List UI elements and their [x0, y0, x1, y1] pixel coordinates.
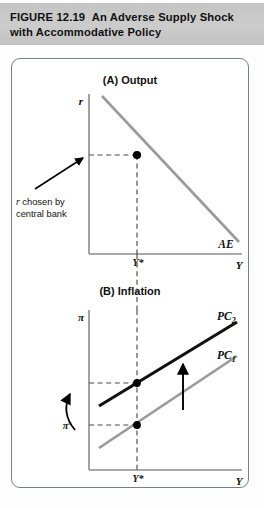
panel-b-inflation: (B) Inflation π Y	[63, 254, 244, 487]
panel-b-x-axis-label: Y	[236, 475, 244, 487]
panel-a-annotation-rest1: chosen by	[22, 197, 65, 207]
panel-a-annotation-arrow-icon	[35, 158, 83, 189]
panel-a-annotation-italic-r: r	[16, 196, 20, 207]
panel-b-pc1-curve	[99, 356, 237, 448]
figure-title-line1: An Adverse Supply Shock	[92, 11, 234, 23]
panel-b-pc1-label-sub: 1	[232, 355, 236, 364]
figure-title-line2: with Accommodative Policy	[10, 25, 258, 40]
panel-b-title: (B) Inflation	[99, 285, 160, 297]
panel-b-y-tick-sup: e	[68, 419, 71, 427]
figure-title: FIGURE 12.19 An Adverse Supply Shock wit…	[10, 10, 258, 39]
figure-charts: (A) Output r Y AE Y* rchosen by	[11, 58, 249, 488]
panel-a-y-axis-label: r	[79, 95, 84, 107]
panel-b-x-tick-label: Y*	[132, 473, 144, 484]
panel-a-annotation-line1: rchosen by	[16, 196, 65, 207]
panel-a-annotation-line2: central bank	[16, 209, 67, 219]
figure-header-band: FIGURE 12.19 An Adverse Supply Shock wit…	[0, 3, 264, 45]
panel-b-y-axis-label: π	[78, 311, 85, 323]
panel-a-ae-label: AE	[217, 238, 234, 250]
panel-b-old-equilibrium-dot	[133, 421, 141, 429]
panel-b-pc2-label: PC2	[217, 310, 236, 325]
panel-b-pc2-curve	[99, 322, 237, 406]
panel-b-new-equilibrium-dot	[133, 379, 141, 387]
panel-a-x-axis-label: Y	[236, 259, 244, 271]
panel-a-equilibrium-dot	[133, 151, 141, 159]
panel-b-pc2-label-sub: 2	[231, 316, 236, 325]
panel-b-pc2-label-base: PC	[217, 310, 232, 322]
panel-a-ae-curve	[102, 96, 239, 242]
panel-a-x-tick-label: Y*	[132, 257, 144, 268]
figure-number: FIGURE 12.19	[10, 11, 85, 23]
panel-a-output: (A) Output r Y AE Y* rchosen by	[16, 74, 244, 271]
panel-b-pc1-label-base: PC	[217, 349, 232, 361]
panel-a-title: (A) Output	[103, 74, 158, 86]
panel-b-y-tick-label: πe	[63, 419, 72, 431]
figure-root: FIGURE 12.19 An Adverse Supply Shock wit…	[0, 0, 264, 508]
